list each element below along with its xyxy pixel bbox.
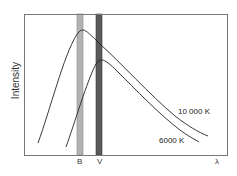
plot-frame bbox=[25, 15, 228, 156]
x-tick-v: V bbox=[97, 157, 102, 166]
x-axis-label: λ bbox=[215, 157, 219, 166]
plot-area bbox=[0, 0, 237, 176]
curve-10000k bbox=[38, 30, 208, 143]
label-10000k: 10 000 K bbox=[178, 107, 210, 116]
blackbody-chart: Intensity B V λ 10 000 K 6000 K bbox=[0, 0, 237, 176]
y-axis-label: Intensity bbox=[10, 54, 21, 108]
label-6000k: 6000 K bbox=[159, 136, 184, 145]
x-tick-b: B bbox=[77, 157, 82, 166]
curve-6000k bbox=[66, 60, 199, 147]
band-v bbox=[96, 14, 102, 155]
band-b bbox=[77, 14, 83, 155]
